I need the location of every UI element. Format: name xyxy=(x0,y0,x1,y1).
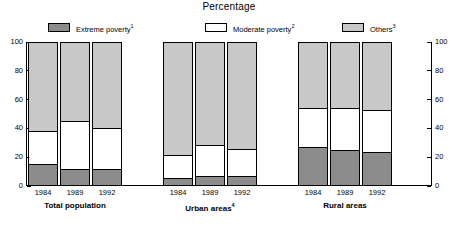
bar-group-rural-areas xyxy=(298,42,392,186)
y-tick-label-l-0: 0 xyxy=(1,182,23,190)
y-tick-r-0 xyxy=(427,186,431,187)
chart-title: Percentage xyxy=(0,1,458,12)
bar-segment-others xyxy=(61,43,89,121)
y-tick-r-60 xyxy=(427,99,431,100)
y-tick-label-r-40: 40 xyxy=(435,124,457,132)
group-labels: Total populationUrban areas4Rural areas xyxy=(26,200,432,214)
legend-label-moderate-poverty: Moderate poverty2 xyxy=(233,22,294,34)
legend-item-extreme-poverty: Extreme poverty1 xyxy=(48,22,134,34)
bar-segment-moderate xyxy=(93,128,121,169)
bar-segment-extreme xyxy=(299,147,327,185)
bar-segment-moderate xyxy=(331,108,359,149)
y-tick-label-r-20: 20 xyxy=(435,153,457,161)
bar-total-population-1984[interactable] xyxy=(28,42,58,186)
y-tick-label-l-80: 80 xyxy=(1,67,23,75)
bar-total-population-1992[interactable] xyxy=(92,42,122,186)
y-tick-label-l-100: 100 xyxy=(1,38,23,46)
bar-group-urban-areas xyxy=(163,42,257,186)
bar-segment-extreme xyxy=(228,176,256,185)
group-label-urban-areas: Urban areas4 xyxy=(140,200,280,214)
x-tick-label-1992-0: 1992 xyxy=(87,188,127,198)
bar-total-population-1989[interactable] xyxy=(60,42,90,186)
bar-segment-extreme xyxy=(196,176,224,185)
y-tick-label-r-60: 60 xyxy=(435,96,457,104)
y-tick-label-l-60: 60 xyxy=(1,96,23,104)
legend-item-others: Others3 xyxy=(342,22,396,34)
bar-segment-moderate xyxy=(196,145,224,176)
y-tick-r-80 xyxy=(427,70,431,71)
bar-segment-extreme xyxy=(29,164,57,185)
bar-segment-others xyxy=(29,43,57,131)
bar-segment-extreme xyxy=(61,169,89,185)
plot-area: 002020404060608080100100 xyxy=(26,42,432,186)
legend-item-moderate-poverty: Moderate poverty2 xyxy=(205,22,294,34)
bar-segment-others xyxy=(164,43,192,155)
bar-segment-extreme xyxy=(331,150,359,186)
legend-swatch-moderate-poverty xyxy=(205,23,227,32)
bar-urban-areas-1992[interactable] xyxy=(227,42,257,186)
bar-segment-others xyxy=(196,43,224,145)
bar-segment-others xyxy=(228,43,256,149)
bar-segment-others xyxy=(299,43,327,108)
bar-segment-moderate xyxy=(29,131,57,164)
y-tick-label-l-20: 20 xyxy=(1,153,23,161)
bar-segment-extreme xyxy=(363,152,391,185)
chart-legend: Extreme poverty1 Moderate poverty2 Other… xyxy=(0,22,458,35)
x-tick-label-1992-1: 1992 xyxy=(222,188,262,198)
y-axis-left xyxy=(26,42,27,186)
group-label-total-population: Total population xyxy=(5,200,145,211)
bar-urban-areas-1989[interactable] xyxy=(195,42,225,186)
x-tick-label-1992-2: 1992 xyxy=(357,188,397,198)
y-tick-r-20 xyxy=(427,157,431,158)
bar-segment-moderate xyxy=(363,110,391,153)
bar-segment-extreme xyxy=(93,169,121,185)
y-tick-label-r-80: 80 xyxy=(435,67,457,75)
bar-segment-moderate xyxy=(164,155,192,178)
legend-label-extreme-poverty: Extreme poverty1 xyxy=(76,22,134,34)
y-tick-label-l-40: 40 xyxy=(1,124,23,132)
bar-segment-moderate xyxy=(228,149,256,176)
bar-urban-areas-1984[interactable] xyxy=(163,42,193,186)
legend-swatch-extreme-poverty xyxy=(48,23,70,32)
bar-rural-areas-1992[interactable] xyxy=(362,42,392,186)
bar-segment-moderate xyxy=(61,121,89,169)
bar-rural-areas-1989[interactable] xyxy=(330,42,360,186)
y-tick-r-40 xyxy=(427,128,431,129)
y-tick-r-100 xyxy=(427,42,431,43)
bar-group-total-population xyxy=(28,42,122,186)
legend-label-others: Others3 xyxy=(370,22,396,34)
y-tick-label-r-0: 0 xyxy=(435,182,457,190)
y-tick-label-r-100: 100 xyxy=(435,38,457,46)
bar-segment-moderate xyxy=(299,108,327,146)
bar-segment-extreme xyxy=(164,178,192,185)
y-axis-right xyxy=(431,42,432,186)
bar-segment-others xyxy=(331,43,359,108)
bar-segment-others xyxy=(93,43,121,128)
legend-swatch-others xyxy=(342,23,364,32)
x-tick-labels: 198419891992198419891992198419891992 xyxy=(26,188,432,200)
bar-segment-others xyxy=(363,43,391,110)
group-label-rural-areas: Rural areas xyxy=(275,200,415,211)
bar-rural-areas-1984[interactable] xyxy=(298,42,328,186)
chart-root: Percentage Extreme poverty1 Moderate pov… xyxy=(0,0,458,237)
